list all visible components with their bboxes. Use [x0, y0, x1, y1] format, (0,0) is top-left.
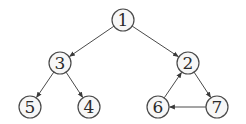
graph-diagram: 1325467 — [0, 0, 246, 124]
node-label: 4 — [84, 97, 95, 117]
edge-2-to-7 — [194, 72, 211, 97]
edge-6-to-2 — [164, 73, 181, 98]
node-3: 3 — [49, 52, 71, 74]
edge-3-to-5 — [37, 72, 54, 97]
node-4: 4 — [78, 96, 100, 118]
node-7: 7 — [206, 96, 228, 118]
node-label: 3 — [55, 53, 66, 73]
nodes-layer: 1325467 — [19, 9, 228, 118]
node-label: 2 — [183, 53, 194, 73]
node-5: 5 — [19, 96, 41, 118]
edge-1-to-3 — [70, 26, 114, 56]
node-label: 5 — [25, 97, 36, 117]
edge-3-to-4 — [66, 72, 83, 97]
node-label: 7 — [212, 97, 223, 117]
edge-1-to-2 — [132, 26, 178, 57]
node-2: 2 — [177, 52, 199, 74]
node-6: 6 — [147, 96, 169, 118]
graph-svg: 1325467 — [0, 0, 246, 124]
node-label: 6 — [153, 97, 164, 117]
node-1: 1 — [112, 9, 134, 31]
node-label: 1 — [118, 10, 129, 30]
